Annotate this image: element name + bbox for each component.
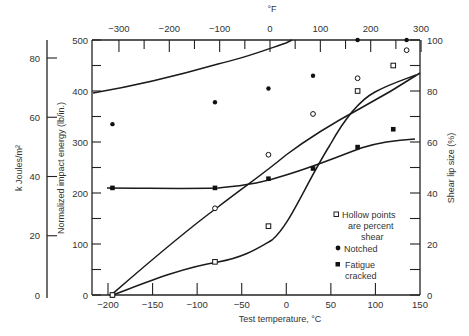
tick-label: 0 — [267, 23, 272, 34]
legend-cracked: cracked — [345, 271, 377, 281]
data-point — [311, 112, 316, 117]
fahrenheit-axis: −300−200−1000100200300 — [108, 23, 429, 52]
data-point — [213, 186, 218, 191]
legend-line-3: shear — [361, 232, 384, 242]
celsius-axis-label: Test temperature, °C — [239, 314, 322, 324]
tick-label: 200 — [72, 188, 88, 199]
notched-energy-curve — [93, 40, 292, 93]
tick-label: 0 — [35, 290, 40, 301]
legend-filled-circle-icon — [336, 246, 341, 251]
data-point — [110, 186, 115, 191]
tick-label: 40 — [427, 188, 438, 199]
tick-label: −150 — [142, 299, 163, 310]
tick-label: 80 — [427, 86, 438, 97]
tick-label: 60 — [29, 112, 40, 123]
tick-label: 20 — [427, 239, 438, 250]
impact-energy-axis: 0100200300400500 — [72, 35, 101, 301]
tick-label: 50 — [326, 299, 337, 310]
data-point — [110, 122, 114, 126]
data-point — [355, 38, 359, 42]
data-point — [355, 76, 360, 81]
tick-label: 0 — [83, 290, 88, 301]
tick-label: 0 — [284, 299, 289, 310]
legend-filled-square-icon — [336, 262, 341, 267]
data-point — [355, 89, 360, 94]
data-point — [404, 38, 408, 42]
data-point — [391, 63, 396, 68]
curves — [93, 40, 420, 296]
tick-label: 400 — [72, 86, 88, 97]
legend-notched: Notched — [344, 244, 378, 254]
legend-line-2: are percent — [348, 221, 394, 231]
legend-line-1: Hollow points — [342, 210, 396, 220]
tick-label: −100 — [209, 23, 230, 34]
kjoules-axis-label: k Joules/m² — [14, 145, 24, 191]
shear-lip-axis: 020406080100 — [410, 35, 443, 301]
impact-energy-chart: 020406080 k Joules/m² 0100200300400500 N… — [0, 0, 469, 336]
tick-label: 100 — [427, 35, 443, 46]
tick-label: 80 — [29, 53, 40, 64]
tick-label: −50 — [234, 299, 250, 310]
data-point — [213, 100, 217, 104]
tick-label: 100 — [312, 23, 328, 34]
plot-frame — [92, 40, 420, 295]
celsius-axis: −200−150−100−50050100150 — [97, 283, 428, 310]
data-point — [391, 127, 396, 132]
legend-fatigue: Fatigue — [345, 260, 375, 270]
tick-label: 60 — [427, 137, 438, 148]
data-point — [311, 74, 315, 78]
tick-label: −200 — [97, 299, 118, 310]
tick-label: 500 — [72, 35, 88, 46]
tick-label: 100 — [72, 239, 88, 250]
data-point — [266, 176, 271, 181]
data-point — [404, 48, 409, 53]
tick-label: 200 — [363, 23, 379, 34]
data-point — [266, 152, 271, 157]
data-point — [213, 260, 218, 265]
tick-label: 20 — [29, 230, 40, 241]
data-point — [110, 293, 115, 298]
fatigue-energy-curve — [107, 139, 415, 188]
shear-lip-axis-label: Shear lip size (%) — [446, 133, 456, 204]
tick-label: 100 — [367, 299, 383, 310]
kjoules-axis: 020406080 k Joules/m² — [14, 40, 57, 301]
data-point — [213, 206, 218, 211]
data-point — [266, 224, 271, 229]
tick-label: −300 — [108, 23, 129, 34]
tick-label: 300 — [72, 137, 88, 148]
data-point — [311, 166, 316, 171]
tick-label: 150 — [412, 299, 428, 310]
data-point — [355, 145, 360, 150]
tick-label: −200 — [159, 23, 180, 34]
tick-label: −100 — [186, 299, 207, 310]
tick-label: 40 — [29, 171, 40, 182]
legend: Hollow points are percent shear Notched … — [334, 210, 396, 281]
legend-hollow-square-icon — [334, 212, 339, 217]
impact-energy-axis-label: Normalized impact energy (lb/in.) — [56, 102, 66, 234]
data-point — [266, 86, 270, 90]
tick-label: 300 — [413, 23, 429, 34]
fahrenheit-axis-label: °F — [267, 4, 277, 14]
